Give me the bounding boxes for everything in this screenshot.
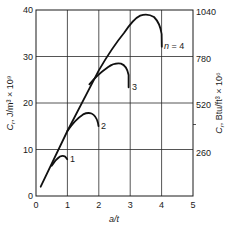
y-right-label-units: , Btu/ft³ × 10⁶ xyxy=(214,72,224,125)
x-tick-0: 0 xyxy=(33,200,38,210)
y-right-tick-1040: 1040 xyxy=(196,7,216,17)
y-tick-20: 20 xyxy=(23,98,33,108)
y-tick-40: 40 xyxy=(23,5,33,15)
x-axis-ticks: 0 1 2 3 4 5 xyxy=(33,200,195,210)
curve-label-1: 1 xyxy=(70,154,75,164)
y-tick-30: 30 xyxy=(23,52,33,62)
y-axis-left-label: Cr, J/m³ × 10⁹ xyxy=(5,75,16,130)
curve-n4 xyxy=(41,15,162,187)
svg-text:Cr, Btu/ft³ × 10⁶: Cr, Btu/ft³ × 10⁶ xyxy=(214,72,225,134)
y-right-tick-260: 260 xyxy=(196,148,211,158)
curve-label-4-rest: = 4 xyxy=(169,41,184,51)
x-tick-4: 4 xyxy=(159,200,164,210)
x-tick-5: 5 xyxy=(190,200,195,210)
y-right-tick-520: 520 xyxy=(196,100,211,110)
curve-label-3: 3 xyxy=(132,82,137,92)
curve-label-2: 2 xyxy=(101,121,106,131)
chart: 0 10 20 30 40 260 520 780 1040 0 1 2 3 4… xyxy=(0,0,232,230)
y-axis-left-ticks: 0 10 20 30 40 xyxy=(23,5,33,201)
x-tick-3: 3 xyxy=(128,200,133,210)
y-left-label-units: , J/m³ × 10⁹ xyxy=(5,75,15,122)
y-tick-0: 0 xyxy=(28,191,33,201)
svg-text:Cr, J/m³ × 10⁹: Cr, J/m³ × 10⁹ xyxy=(5,75,16,130)
curves xyxy=(41,15,162,187)
y-right-tick-780: 780 xyxy=(196,54,211,64)
curve-label-4: n = 4 xyxy=(164,41,184,51)
x-axis-label: a/t xyxy=(109,214,120,224)
x-tick-1: 1 xyxy=(65,200,70,210)
y-tick-10: 10 xyxy=(23,145,33,155)
x-tick-2: 2 xyxy=(96,200,101,210)
grid xyxy=(36,10,196,196)
y-axis-right-label: Cr, Btu/ft³ × 10⁶ xyxy=(214,72,225,134)
